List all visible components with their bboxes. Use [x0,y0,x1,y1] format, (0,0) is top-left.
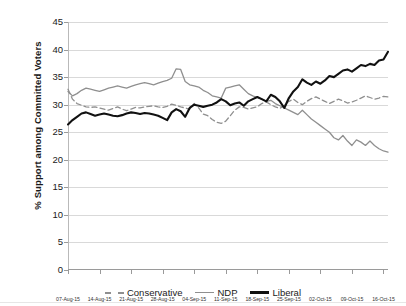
legend-item-ndp[interactable]: NDP [195,288,237,298]
x-axis-tick-mark [163,270,164,274]
plot-area: 051015202530354045 07-Aug-1514-Aug-1521-… [68,22,388,270]
series-line-conservative [68,89,388,123]
x-axis-tick-mark [68,270,69,274]
y-axis-tick-label: 30 [39,99,63,110]
y-axis-tick-label: 25 [39,126,63,137]
legend-divider [0,302,406,303]
x-axis-tick-mark [352,270,353,274]
legend-label-liberal: Liberal [272,288,301,298]
x-axis-tick-mark [320,270,321,274]
legend-swatch-conservative [105,292,124,294]
x-axis-tick-mark [289,270,290,274]
y-axis-tick-label: 45 [39,16,63,27]
chart-container: % Support among Committed Voters 0510152… [0,0,406,306]
legend-swatch-ndp [195,292,214,293]
y-axis-tick-label: 0 [39,264,63,275]
x-axis-tick-mark [100,270,101,274]
x-axis-tick-mark [383,270,384,274]
y-axis-tick-label: 15 [39,181,63,192]
x-axis-tick-mark [226,270,227,274]
y-axis-tick-label: 20 [39,154,63,165]
chart-legend: ConservativeNDPLiberal [0,288,406,298]
series-lines [68,22,388,270]
x-axis-tick-mark [131,270,132,274]
x-axis-tick-mark [194,270,195,274]
legend-item-liberal[interactable]: Liberal [250,288,301,298]
legend-item-conservative[interactable]: Conservative [105,288,182,298]
y-axis-tick-label: 5 [39,236,63,247]
y-axis-tick-label: 40 [39,44,63,55]
y-axis-tick-label: 10 [39,209,63,220]
x-axis-tick-mark [257,270,258,274]
series-line-ndp [68,69,388,152]
legend-label-ndp: NDP [217,288,237,298]
legend-label-conservative: Conservative [127,288,182,298]
legend-swatch-liberal [250,291,269,294]
y-axis-tick-label: 35 [39,71,63,82]
